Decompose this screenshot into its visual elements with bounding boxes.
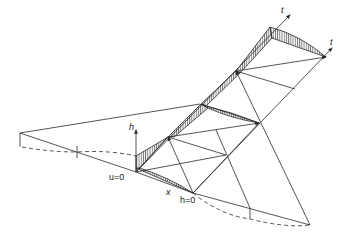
h-zero-label: h=0 — [180, 196, 195, 205]
x-axis-label: x — [166, 188, 171, 197]
t-axis-top-label: t — [281, 6, 284, 15]
u-zero-label: u=0 — [109, 173, 124, 182]
t-axis-right-label: t — [330, 38, 333, 47]
h-axis-label: h — [129, 123, 134, 132]
bottom-wedge — [193, 193, 310, 226]
